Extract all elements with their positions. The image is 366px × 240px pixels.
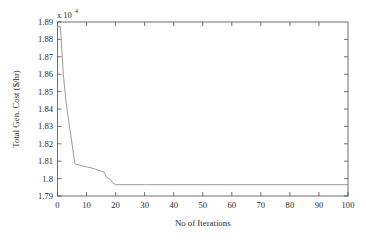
x-axis-ticks-top xyxy=(87,22,319,26)
x-tick-label: 0 xyxy=(55,200,59,210)
cost-convergence-curve xyxy=(58,26,349,184)
x-tick-label: 30 xyxy=(140,200,149,210)
x-tick-label: 100 xyxy=(342,200,355,210)
y-exponent-base: x 10 xyxy=(57,11,72,20)
x-tick-labels: 0 10 20 30 40 50 60 70 80 90 100 xyxy=(55,200,354,210)
y-tick-label: 1.82 xyxy=(38,139,53,149)
plot-frame xyxy=(58,22,349,196)
x-axis-ticks xyxy=(58,192,349,196)
y-tick-label: 1.86 xyxy=(38,69,54,79)
y-tick-label: 1.84 xyxy=(38,104,54,114)
y-tick-label: 1.88 xyxy=(38,34,53,44)
y-tick-labels: 1.79 1.8 1.81 1.82 1.83 1.84 1.85 1.86 1… xyxy=(38,17,54,201)
y-exponent-power: 4 xyxy=(75,8,78,14)
y-tick-label: 1.79 xyxy=(38,191,53,201)
x-tick-label: 10 xyxy=(82,200,91,210)
x-tick-label: 40 xyxy=(169,200,178,210)
y-tick-label: 1.81 xyxy=(38,156,53,166)
x-tick-label: 90 xyxy=(315,200,324,210)
y-axis-label: Total Gen. Cost ($/hr) xyxy=(11,70,21,148)
y-axis-exponent: x 10 4 xyxy=(57,8,78,19)
y-tick-label: 1.8 xyxy=(42,174,53,184)
y-tick-label: 1.87 xyxy=(38,52,54,62)
y-tick-label: 1.85 xyxy=(38,87,53,97)
chart-figure: 1.79 1.8 1.81 1.82 1.83 1.84 1.85 1.86 1… xyxy=(0,0,366,240)
y-axis-ticks-right xyxy=(344,39,348,196)
y-tick-label: 1.83 xyxy=(38,121,53,131)
x-tick-label: 80 xyxy=(286,200,295,210)
x-tick-label: 20 xyxy=(111,200,120,210)
x-axis-label: No of Iterations xyxy=(175,218,231,228)
y-axis-ticks xyxy=(58,22,62,196)
x-tick-label: 60 xyxy=(228,200,237,210)
x-tick-label: 50 xyxy=(198,200,207,210)
y-tick-label: 1.89 xyxy=(38,17,53,27)
line-chart: 1.79 1.8 1.81 1.82 1.83 1.84 1.85 1.86 1… xyxy=(0,0,366,240)
x-tick-label: 70 xyxy=(257,200,266,210)
